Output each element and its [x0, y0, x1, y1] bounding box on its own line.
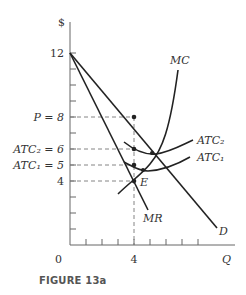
- mr-label: MR: [142, 212, 163, 225]
- equilibrium-point: [132, 179, 137, 184]
- x-ticks: [86, 239, 198, 245]
- y-tick-12: 12: [50, 47, 64, 60]
- price-point: [132, 115, 137, 120]
- atc2-label: ATC₂: [196, 134, 225, 147]
- mc-label: MC: [169, 54, 190, 67]
- origin-label: 0: [55, 253, 62, 266]
- y-tick-price: P = 8: [32, 111, 64, 124]
- x-axis-label: Q: [222, 253, 231, 266]
- dashed-guides: [70, 117, 134, 245]
- atc1-point: [132, 163, 137, 168]
- equilibrium-label: E: [139, 176, 148, 189]
- y-tick-4: 4: [57, 175, 64, 188]
- demand-label: D: [218, 225, 228, 238]
- atc2-point: [132, 147, 137, 152]
- atc2-min-point: [150, 151, 154, 155]
- y-axis-label: $: [58, 16, 65, 29]
- y-tick-atc1: ATC₁ = 5: [12, 159, 64, 172]
- atc1-label: ATC₁: [196, 151, 225, 164]
- monopoly-cost-diagram: $ Q 0 12 P = 8 ATC₂ = 6 ATC₁ = 5 4 4 MC …: [0, 0, 246, 295]
- x-tick-4: 4: [131, 253, 138, 266]
- figure-caption: FIGURE 13a: [0, 275, 246, 286]
- y-ticks: [70, 53, 76, 229]
- y-tick-atc2: ATC₂ = 6: [12, 143, 64, 156]
- atc1-min-point: [141, 168, 145, 172]
